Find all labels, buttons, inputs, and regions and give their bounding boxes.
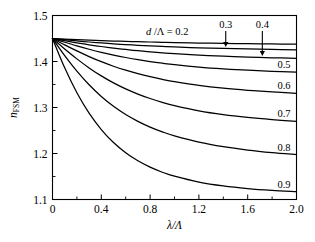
y-tick-label: 1.2 — [33, 148, 48, 160]
curve-label-0-5: 0.5 — [277, 59, 290, 70]
x-tick-label: 0.8 — [143, 203, 158, 215]
x-tick-label: 1.6 — [241, 203, 256, 215]
curve-0-7 — [53, 39, 297, 122]
curve-label-0-9: 0.9 — [277, 179, 290, 190]
curve-0-9 — [53, 39, 297, 192]
annotation-rest: /Λ = 0.2 — [151, 26, 188, 37]
y-tick-label: 1.5 — [33, 10, 48, 22]
y-axis-label: nFSM — [7, 97, 21, 118]
x-axis-label: λ/Λ — [166, 219, 182, 231]
x-tick-label: 0.4 — [94, 203, 109, 215]
y-tick-label: 1.3 — [33, 102, 48, 114]
curve-label-0-8: 0.8 — [277, 142, 290, 153]
y-tick-label: 1.1 — [33, 194, 48, 206]
curve-label-0-6: 0.6 — [277, 80, 290, 91]
y-tick-label: 1.4 — [33, 56, 48, 68]
curve-0-2 — [53, 39, 297, 45]
x-tick-label: 0 — [50, 203, 56, 215]
figure-container: 00.40.81.21.62.01.11.21.31.41.5λ/ΛnFSMd … — [0, 0, 315, 242]
arrow-label-0-4: 0.4 — [256, 19, 270, 30]
arrow-head-0-4 — [260, 51, 265, 56]
series-parameter-annotation: d /Λ = 0.2 — [146, 26, 188, 37]
arrow-label-0-3: 0.3 — [219, 19, 232, 30]
chart-svg: 00.40.81.21.62.01.11.21.31.41.5λ/ΛnFSMd … — [0, 0, 315, 242]
arrow-head-0-3 — [223, 42, 228, 47]
curves-group — [53, 39, 297, 192]
curve-label-0-7: 0.7 — [277, 108, 290, 119]
x-tick-label: 1.2 — [192, 203, 207, 215]
x-tick-label: 2.0 — [289, 203, 304, 215]
y-axis-label-subscript: FSM — [12, 97, 21, 112]
